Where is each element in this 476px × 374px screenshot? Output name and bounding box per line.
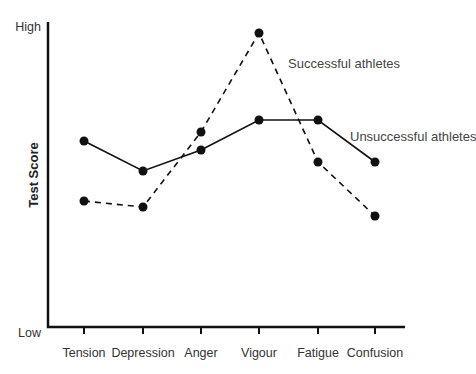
- data-point-marker: [80, 197, 89, 206]
- data-point-marker: [371, 158, 380, 167]
- data-point-marker: [139, 167, 148, 176]
- data-point-marker: [197, 128, 206, 137]
- x-tick-label: Tension: [62, 346, 105, 360]
- x-tick-label: Anger: [184, 346, 217, 360]
- data-point-marker: [314, 116, 323, 125]
- data-point-marker: [371, 212, 380, 221]
- data-point-marker: [80, 137, 89, 146]
- x-ticks: TensionDepressionAngerVigourFatigueConfu…: [62, 327, 403, 360]
- line-chart: High Low Test Score TensionDepressionAng…: [0, 0, 476, 374]
- series-labels: Successful athletes Unsuccessful athlete…: [288, 56, 476, 144]
- series-label-unsuccessful: Unsuccessful athletes: [350, 129, 476, 144]
- data-point-marker: [255, 29, 264, 38]
- series-label-successful: Successful athletes: [288, 56, 401, 71]
- x-tick-label: Confusion: [347, 346, 403, 360]
- y-tick-low: Low: [18, 326, 42, 340]
- series-line: [84, 120, 375, 171]
- data-point-marker: [197, 146, 206, 155]
- y-axis-title: Test Score: [26, 142, 41, 208]
- series-unsuccessful: [80, 116, 380, 176]
- data-point-marker: [255, 116, 264, 125]
- data-point-marker: [314, 158, 323, 167]
- y-tick-high: High: [15, 20, 41, 34]
- data-point-marker: [139, 203, 148, 212]
- x-axis: TensionDepressionAngerVigourFatigueConfu…: [47, 327, 405, 360]
- x-tick-label: Depression: [111, 346, 174, 360]
- x-tick-label: Vigour: [241, 346, 277, 360]
- x-tick-label: Fatigue: [297, 346, 339, 360]
- y-axis: High Low Test Score: [15, 20, 48, 340]
